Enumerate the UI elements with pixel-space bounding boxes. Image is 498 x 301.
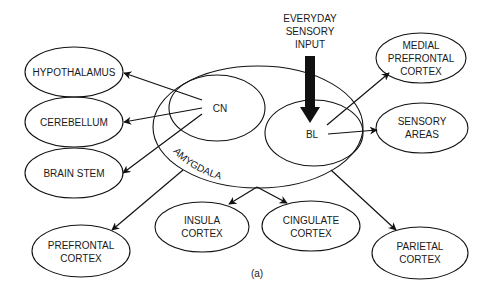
node-parietal-cortex: PARIETAL CORTEX [372, 227, 468, 279]
input-label-line2: SENSORY [286, 26, 335, 37]
input-label-line1: EVERYDAY [283, 13, 337, 24]
node-sensory-areas: SENSORY AREAS [376, 103, 468, 153]
amygdala-label: AMYGDALA [172, 145, 224, 181]
edge-amygdala-cingulate [257, 187, 287, 203]
sensory-areas-label-2: AREAS [405, 129, 439, 140]
cingulate-cortex-label-2: CORTEX [290, 228, 332, 239]
node-cerebellum: CEREBELLUM [25, 97, 123, 147]
prefrontal-cortex-label-2: CORTEX [60, 253, 102, 264]
node-insula-cortex: INSULA CORTEX [155, 202, 249, 252]
node-prefrontal-cortex: PREFRONTAL CORTEX [32, 225, 130, 277]
edge-amygdala-insula [229, 187, 257, 204]
brain-stem-label: BRAIN STEM [43, 168, 104, 179]
node-cingulate-cortex: CINGULATE CORTEX [262, 201, 360, 251]
edge-amygdala-prefrontal [112, 170, 183, 230]
medial-prefrontal-label-3: CORTEX [400, 66, 442, 77]
parietal-cortex-label-2: CORTEX [399, 254, 441, 265]
hypothalamus-label: HYPOTHALAMUS [33, 67, 116, 78]
sensory-input: EVERYDAY SENSORY INPUT [283, 13, 337, 123]
cingulate-cortex-label-1: CINGULATE [283, 215, 340, 226]
cn-label: CN [213, 103, 227, 114]
edge-cn-cerebellum [124, 108, 202, 122]
sensory-areas-label-1: SENSORY [398, 116, 447, 127]
bl-label: BL [306, 129, 319, 140]
parietal-cortex-label-1: PARIETAL [397, 241, 444, 252]
insula-cortex-label-2: CORTEX [181, 228, 223, 239]
prefrontal-cortex-label-1: PREFRONTAL [48, 240, 115, 251]
amygdala-diagram: AMYGDALA CN BL EVERYDAY SENSORY INPUT HY… [0, 0, 498, 301]
edge-cn-hypothalamus [124, 73, 202, 100]
edge-bl-sensory-areas [328, 130, 377, 134]
edge-amygdala-parietal [331, 170, 396, 230]
input-label-line3: INPUT [295, 39, 325, 50]
node-hypothalamus: HYPOTHALAMUS [25, 47, 123, 97]
node-brain-stem: BRAIN STEM [25, 148, 123, 198]
thick-down-arrow-icon [300, 56, 320, 123]
medial-prefrontal-label-2: PREFRONTAL [388, 53, 455, 64]
cn-nucleus: CN [169, 75, 265, 141]
medial-prefrontal-label-1: MEDIAL [402, 40, 440, 51]
insula-cortex-label-1: INSULA [184, 215, 220, 226]
edges [112, 73, 396, 230]
node-medial-prefrontal-cortex: MEDIAL PREFRONTAL CORTEX [376, 33, 466, 83]
cerebellum-label: CEREBELLUM [40, 117, 108, 128]
figure-caption: (a) [251, 268, 263, 279]
